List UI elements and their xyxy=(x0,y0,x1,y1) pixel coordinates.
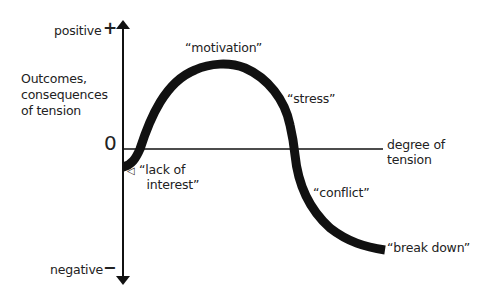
minus-sign: − xyxy=(103,261,116,275)
arrow-down-icon xyxy=(116,276,130,285)
label-motivation: “motivation” xyxy=(185,41,262,55)
negative-label: negative xyxy=(50,263,103,277)
pointer-triangle-icon: ◁ xyxy=(127,164,135,178)
x-axis-title: degree of tension xyxy=(387,137,445,167)
plus-sign: + xyxy=(103,21,117,35)
label-stress: “stress” xyxy=(287,92,335,106)
origin-label: 0 xyxy=(104,131,117,155)
tension-curve xyxy=(123,64,385,250)
label-conflict: “conflict” xyxy=(313,186,370,200)
label-break-down: “break down” xyxy=(387,241,470,255)
arrow-up-icon xyxy=(116,20,130,29)
y-axis xyxy=(116,20,130,285)
y-axis-title: Outcomes, consequences of tension xyxy=(21,71,108,119)
positive-label: positive xyxy=(54,24,101,38)
label-lack-of-interest: “lack of interest” xyxy=(139,162,199,192)
